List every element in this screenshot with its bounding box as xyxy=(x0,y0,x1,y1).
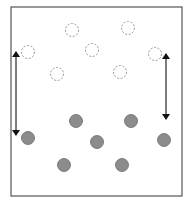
dashed-circle xyxy=(66,24,79,37)
dashed-circle xyxy=(51,68,64,81)
dashed-circle xyxy=(86,44,99,57)
filled-circle xyxy=(125,115,138,128)
filled-circle xyxy=(22,132,35,145)
filled-circle xyxy=(158,134,171,147)
filled-circle xyxy=(91,136,104,149)
dashed-circle xyxy=(122,22,135,35)
dashed-circle xyxy=(149,48,162,61)
dashed-circle-group xyxy=(22,22,162,81)
filled-circle-group xyxy=(22,115,171,172)
dashed-circle xyxy=(114,66,127,79)
filled-circle xyxy=(70,115,83,128)
filled-circle xyxy=(116,159,129,172)
dashed-circle xyxy=(22,46,35,59)
diagram-frame xyxy=(11,7,182,196)
diagram-canvas xyxy=(0,0,189,206)
filled-circle xyxy=(58,159,71,172)
double-arrow-group xyxy=(16,54,166,133)
